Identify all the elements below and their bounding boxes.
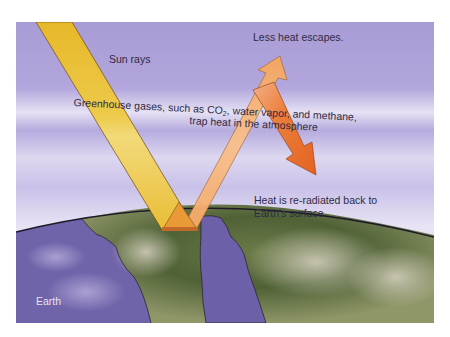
diagram-artwork [16, 22, 434, 323]
label-sun-rays: Sun rays [109, 53, 150, 65]
label-heat-reradiated: Heat is re-radiated back to Earth's surf… [254, 194, 377, 220]
reflection-base [162, 227, 198, 231]
earth-surface [16, 205, 434, 323]
label-earth: Earth [36, 295, 61, 307]
greenhouse-effect-diagram: Sun rays Less heat escapes. Greenhouse g… [16, 22, 434, 323]
label-less-heat-escapes: Less heat escapes. [253, 31, 343, 43]
